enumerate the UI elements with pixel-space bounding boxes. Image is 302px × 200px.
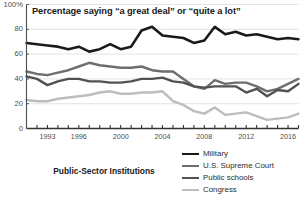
chart-caption: Public-Sector Institutions bbox=[34, 166, 174, 176]
y-tick-label: 40 bbox=[1, 74, 23, 83]
legend-item: Congress bbox=[182, 184, 302, 196]
legend-swatch-icon bbox=[182, 189, 199, 191]
y-tick-label: 80 bbox=[1, 24, 23, 33]
legend-item: Public schools bbox=[182, 172, 302, 184]
legend-label: U.S. Supreme Court bbox=[203, 161, 274, 171]
chart-title: Percentage saying “a great deal” or “qui… bbox=[32, 6, 282, 16]
x-tick-label: 1993 bbox=[32, 132, 62, 141]
x-tick-label: 2016 bbox=[273, 132, 302, 141]
legend-swatch-icon bbox=[182, 177, 199, 179]
y-tick-label: 100% bbox=[0, 0, 23, 9]
legend-label: Military bbox=[203, 149, 228, 159]
x-tick-label: 2004 bbox=[148, 132, 178, 141]
chart-figure: Percentage saying “a great deal” or “qui… bbox=[0, 0, 302, 200]
y-tick-label: 20 bbox=[1, 99, 23, 108]
legend-swatch-icon bbox=[182, 165, 199, 167]
legend-swatch-icon bbox=[182, 153, 199, 156]
legend-label: Public schools bbox=[203, 173, 253, 183]
x-tick-label: 2000 bbox=[106, 132, 136, 141]
legend-label: Congress bbox=[203, 185, 237, 195]
x-tick-label: 1996 bbox=[64, 132, 94, 141]
y-tick-label: 60 bbox=[1, 49, 23, 58]
y-tick-label: 0 bbox=[1, 124, 23, 133]
legend-item: U.S. Supreme Court bbox=[182, 160, 302, 172]
x-tick-label: 2008 bbox=[189, 132, 219, 141]
chart-legend: MilitaryU.S. Supreme CourtPublic schools… bbox=[182, 148, 302, 196]
x-tick-label: 2012 bbox=[231, 132, 261, 141]
legend-item: Military bbox=[182, 148, 302, 160]
